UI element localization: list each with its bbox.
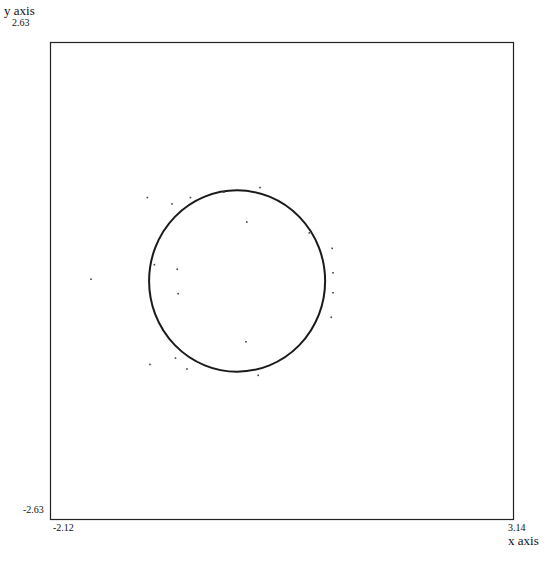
scatter-point xyxy=(223,191,225,193)
scatter-point xyxy=(175,357,177,359)
plot-area xyxy=(0,0,558,575)
scatter-point xyxy=(332,292,334,294)
scatter-point xyxy=(171,203,173,205)
scatter-point xyxy=(186,368,188,370)
scatter-point xyxy=(245,341,247,343)
scatter-point xyxy=(154,264,156,266)
scatter-point xyxy=(332,272,334,274)
scatter-point xyxy=(308,232,310,234)
scatter-point xyxy=(147,197,149,199)
scatter-point xyxy=(246,221,248,223)
scatter-point xyxy=(330,316,332,318)
plot-frame xyxy=(51,43,514,520)
series-layer xyxy=(90,187,334,376)
scatter-point xyxy=(259,187,261,189)
circle-curve xyxy=(149,190,325,371)
scatter-point xyxy=(176,268,178,270)
scatter-point xyxy=(257,375,259,377)
scatter-point xyxy=(149,364,151,366)
scatter-point xyxy=(90,278,92,280)
scatter-point xyxy=(177,293,179,295)
scatter-point xyxy=(331,248,333,250)
scatter-point xyxy=(190,197,192,199)
